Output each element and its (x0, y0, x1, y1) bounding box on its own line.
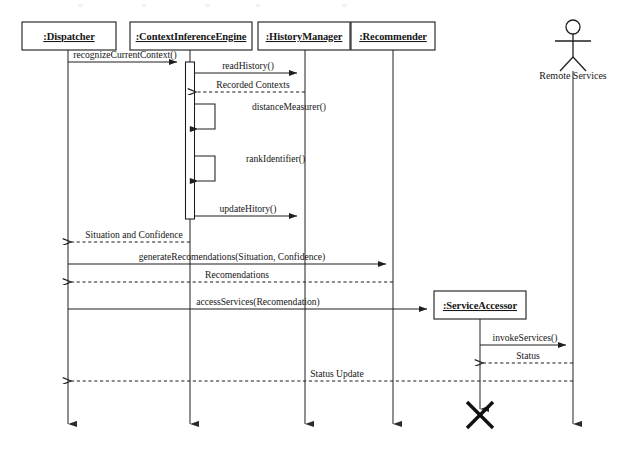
participant-dispatcher[interactable]: :Dispatcher (22, 22, 116, 50)
participant-label-contextinferenceengine: :ContextInferenceEngine (136, 31, 247, 42)
message-label: updateHitory() (219, 203, 276, 215)
actor-leg-left-icon (560, 57, 573, 71)
participant-label-historymanager: :HistoryManager (266, 31, 343, 42)
message-readhistory[interactable]: readHistory() (195, 60, 297, 73)
participant-label-recommender: :Recommender (359, 31, 427, 42)
sequence-diagram-svg: :Dispatcher :ContextInferenceEngine :His… (0, 0, 624, 450)
participant-contextinferenceengine[interactable]: :ContextInferenceEngine (130, 22, 252, 50)
participant-recommender[interactable]: :Recommender (351, 22, 435, 50)
message-label: Situation and Confidence (85, 229, 183, 240)
message-label: generateRecomendations(Situation, Confid… (139, 251, 325, 263)
message-self-path (195, 156, 215, 181)
message-label: recognizeCurrentContext() (73, 49, 176, 61)
message-statusupdate[interactable]: Status Update (71, 368, 573, 381)
participant-label-serviceaccessor: :ServiceAccessor (443, 300, 518, 311)
message-label: Recorded Contexts (216, 79, 290, 90)
message-self-path (195, 104, 215, 129)
scan-artifact-row (78, 4, 347, 7)
actor-leg-right-icon (573, 57, 586, 71)
activation-bar-contextinferenceengine (186, 62, 195, 219)
participant-serviceaccessor[interactable]: :ServiceAccessor (434, 291, 526, 319)
sequence-diagram-canvas: :Dispatcher :ContextInferenceEngine :His… (0, 0, 624, 450)
message-label: accessServices(Recomendation) (196, 296, 320, 308)
message-recomendations[interactable]: Recomendations (71, 269, 393, 282)
message-status[interactable]: Status (483, 350, 573, 363)
message-accessservices[interactable]: accessServices(Recomendation) (68, 296, 427, 309)
message-label: invokeServices() (492, 332, 557, 344)
message-label: rankIdentifier() (246, 153, 305, 165)
participant-historymanager[interactable]: :HistoryManager (258, 22, 350, 50)
message-distancemeasurer-self[interactable]: distanceMeasurer() (195, 101, 326, 129)
message-label: readHistory() (222, 60, 274, 72)
message-label: Status Update (310, 368, 364, 379)
message-label: distanceMeasurer() (252, 101, 326, 113)
message-label: Recomendations (205, 269, 269, 280)
message-recordedcontexts[interactable]: Recorded Contexts (196, 79, 305, 92)
message-updatehitory[interactable]: updateHitory() (195, 203, 297, 216)
message-label: Status (516, 350, 540, 361)
message-situationandconfidence[interactable]: Situation and Confidence (71, 229, 190, 242)
message-generaterecomendations[interactable]: generateRecomendations(Situation, Confid… (68, 251, 386, 264)
message-invokeservices[interactable]: invokeServices() (480, 332, 566, 345)
actor-label-remoteservices: Remote Services (539, 70, 607, 81)
message-recognizecurrentcontext[interactable]: recognizeCurrentContext() (68, 49, 177, 62)
actor-remoteservices[interactable]: Remote Services (539, 20, 607, 81)
message-rankidentifier-self[interactable]: rankIdentifier() (195, 153, 305, 181)
participant-label-dispatcher: :Dispatcher (43, 31, 95, 42)
actor-head-icon (566, 20, 580, 34)
